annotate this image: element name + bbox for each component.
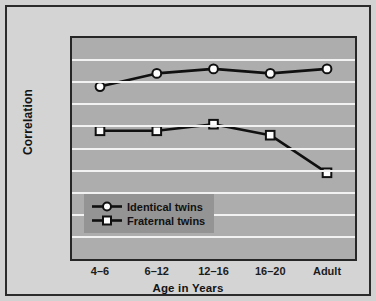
data-point-marker [266, 69, 275, 78]
data-point-marker [209, 65, 218, 74]
plot-area: 1.00.90.80.70.60.50.40.30.20.10.00 Ident… [70, 36, 357, 261]
x-axis-tick-label: 12–16 [198, 265, 229, 277]
data-point-marker [323, 65, 332, 74]
y-axis-title: Correlation [21, 89, 35, 155]
x-axis-title: Age in Years [7, 282, 369, 294]
gridline [72, 148, 355, 150]
legend-marker-circle-icon [91, 200, 123, 213]
gridline [72, 170, 355, 172]
gridline [72, 236, 355, 238]
gridline [72, 81, 355, 83]
figure-frame: Correlation 1.00.90.80.70.60.50.40.30.20… [5, 5, 371, 296]
gridline [72, 125, 355, 127]
x-axis-tick-label: 6–12 [145, 265, 169, 277]
legend-item[interactable]: Identical twins [91, 200, 205, 213]
gridline [72, 103, 355, 105]
data-point-marker [96, 82, 105, 91]
x-axis-tick-label: 16–20 [255, 265, 286, 277]
data-point-marker [152, 69, 161, 78]
data-point-marker [96, 127, 105, 136]
x-axis-tick-label: 4–6 [91, 265, 109, 277]
legend-label: Identical twins [127, 201, 203, 213]
legend-item[interactable]: Fraternal twins [91, 214, 205, 227]
x-axis-tick-label: Adult [313, 265, 341, 277]
legend-marker-square-icon [91, 214, 123, 227]
legend-label: Fraternal twins [127, 215, 205, 227]
gridline [72, 59, 355, 61]
data-point-marker [153, 127, 162, 136]
chart-legend: Identical twins Fraternal twins [84, 194, 214, 233]
chart-page: Correlation 1.00.90.80.70.60.50.40.30.20… [0, 0, 376, 301]
data-point-marker [266, 131, 275, 140]
